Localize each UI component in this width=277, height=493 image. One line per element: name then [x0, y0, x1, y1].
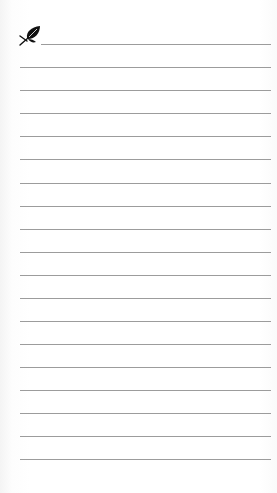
ruled-line [20, 136, 271, 137]
ruled-line [20, 206, 271, 207]
ruled-line [20, 413, 271, 414]
ruled-line [20, 459, 271, 460]
ruled-line [20, 90, 271, 91]
notepad-page [0, 0, 277, 493]
ruled-line [20, 229, 271, 230]
ruled-line [20, 159, 271, 160]
ruled-line [20, 252, 271, 253]
ruled-line [20, 275, 271, 276]
ruled-line [20, 321, 271, 322]
ruled-line [20, 298, 271, 299]
ruled-line [20, 436, 271, 437]
ruled-line [20, 344, 271, 345]
leaf-icon [18, 24, 42, 46]
ruled-line [20, 67, 271, 68]
ruled-line [20, 367, 271, 368]
ruled-line [20, 390, 271, 391]
ruled-line [41, 44, 271, 45]
ruled-line [20, 183, 271, 184]
ruled-line [20, 113, 271, 114]
